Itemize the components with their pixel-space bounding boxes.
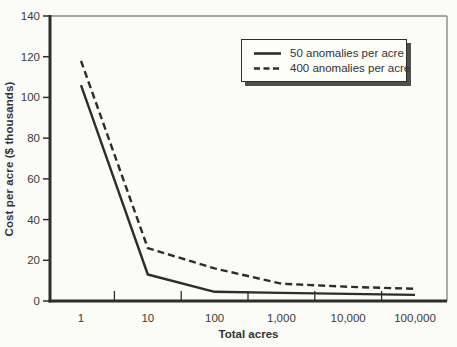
legend-item-400-anomalies: 400 anomalies per acre <box>254 62 406 74</box>
y-tick-label: 120 <box>21 51 40 63</box>
solid-line-swatch <box>254 51 281 56</box>
y-tick-label: 140 <box>21 10 40 22</box>
legend-label-50: 50 anomalies per acre <box>290 47 404 59</box>
cost-per-acre-chart: 0204060801001201401101001,00010,000100,0… <box>0 0 457 347</box>
series-line-50-anomalies <box>81 85 415 295</box>
x-tick-label: 10 <box>141 312 154 324</box>
legend-label-400: 400 anomalies per acre <box>290 62 410 74</box>
x-tick-label: 100 <box>205 312 224 324</box>
x-tick-label: 100,000 <box>394 312 436 324</box>
x-tick-label: 10,000 <box>331 312 366 324</box>
y-tick-label: 20 <box>27 254 40 266</box>
series-line-400-anomalies <box>81 61 415 289</box>
dashed-line-swatch <box>254 66 281 71</box>
x-tick-label: 1,000 <box>267 312 296 324</box>
y-tick-label: 40 <box>27 214 40 226</box>
legend-item-50-anomalies: 50 anomalies per acre <box>254 47 406 59</box>
y-axis-title: Cost per acre ($ thousands) <box>3 16 15 302</box>
y-tick-label: 0 <box>34 295 40 307</box>
y-tick-label: 80 <box>27 132 40 144</box>
chart-legend: 50 anomalies per acre 400 anomalies per … <box>241 39 407 82</box>
y-tick-label: 60 <box>27 173 40 185</box>
x-axis-title: Total acres <box>50 328 447 340</box>
x-tick-label: 1 <box>78 312 84 324</box>
y-tick-label: 100 <box>21 91 40 103</box>
